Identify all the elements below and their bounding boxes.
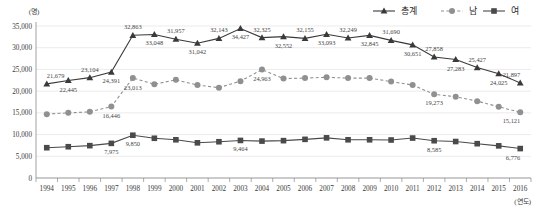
- marker-circle: [194, 82, 200, 88]
- y-axis-unit-label: (명): [29, 7, 40, 16]
- marker-circle: [345, 75, 351, 81]
- legend-label-여: 여: [511, 5, 519, 16]
- data-label: 23,013: [124, 84, 142, 91]
- marker-circle: [87, 109, 93, 115]
- marker-triangle: [431, 54, 438, 60]
- legend-label-남: 남: [469, 6, 477, 16]
- marker-triangle: [216, 35, 223, 41]
- marker-circle: [151, 81, 157, 87]
- chart-legend: 총계남여: [373, 5, 519, 16]
- marker-square: [109, 141, 115, 147]
- data-label: 23,104: [81, 66, 99, 73]
- data-label: 33,048: [146, 39, 164, 46]
- marker-square: [474, 141, 480, 147]
- data-label: 16,446: [103, 112, 121, 119]
- data-label: 30,651: [404, 50, 422, 57]
- marker-square: [130, 132, 136, 138]
- data-label: 27,858: [425, 45, 443, 52]
- marker-circle: [388, 79, 394, 85]
- data-label: 32,143: [210, 26, 228, 33]
- marker-circle: [130, 75, 136, 81]
- marker-circle: [44, 111, 50, 117]
- data-label: 19,273: [425, 99, 443, 106]
- marker-square: [517, 146, 523, 152]
- marker-square: [216, 139, 222, 145]
- x-axis-tick-label: 1996: [83, 185, 98, 193]
- x-axis-tick-label: 2015: [492, 185, 507, 193]
- y-axis-tick-label: 35,000: [12, 23, 32, 31]
- marker-circle: [517, 109, 523, 115]
- x-axis-tick-label: 2007: [319, 185, 334, 193]
- line-chart: 05,00010,00015,00020,00025,00030,00035,0…: [0, 0, 538, 213]
- x-axis-tick-label: 1999: [147, 185, 162, 193]
- marker-triangle: [366, 32, 373, 38]
- marker-square: [152, 135, 158, 141]
- x-axis-tick-label: 1998: [126, 185, 141, 193]
- data-label: 32,845: [361, 40, 379, 47]
- marker-square: [410, 135, 416, 141]
- data-label: 32,249: [339, 26, 357, 33]
- marker-circle: [302, 75, 308, 81]
- x-axis-tick-label: 2012: [427, 185, 442, 193]
- marker-triangle: [517, 80, 524, 86]
- x-axis-tick-label: 2003: [233, 185, 248, 193]
- data-label: 33,093: [318, 39, 336, 46]
- marker-circle: [216, 85, 222, 91]
- x-axis-tick-label: 1995: [61, 185, 76, 193]
- marker-square: [496, 143, 502, 149]
- marker-square: [281, 138, 287, 144]
- y-axis-tick-label: 10,000: [12, 131, 32, 139]
- marker-square: [388, 137, 394, 143]
- x-axis-tick-label: 2006: [298, 185, 313, 193]
- x-axis-tick-label: 2005: [276, 185, 291, 193]
- marker-circle: [65, 110, 71, 116]
- y-axis-tick-label: 0: [28, 175, 32, 183]
- data-label: 32,325: [253, 26, 271, 33]
- marker-circle: [474, 98, 480, 104]
- data-label: 31,690: [382, 28, 400, 35]
- x-axis-tick-label: 2010: [384, 185, 399, 193]
- marker-square: [238, 138, 244, 144]
- data-label: 27,283: [447, 65, 465, 72]
- marker-square: [431, 138, 437, 144]
- x-axis-tick-label: 1994: [40, 185, 55, 193]
- data-label: 24,025: [490, 79, 508, 86]
- y-axis-tick-label: 15,000: [12, 109, 32, 117]
- data-label: 6,776: [506, 154, 520, 161]
- marker-square: [345, 137, 351, 143]
- x-axis-unit-label: (연도): [514, 198, 531, 206]
- marker-square: [87, 143, 93, 149]
- marker-circle: [281, 76, 287, 82]
- y-axis-tick-label: 20,000: [12, 88, 32, 96]
- data-label: 21,679: [47, 72, 65, 79]
- series-남: [44, 67, 523, 118]
- marker-circle: [431, 91, 437, 97]
- y-axis-tick-label: 25,000: [12, 66, 32, 74]
- y-axis-tick-label: 5,000: [16, 153, 33, 161]
- x-axis-tick-label: 2009: [362, 185, 377, 193]
- marker-square: [65, 144, 71, 150]
- x-axis-tick-label: 2014: [470, 185, 485, 193]
- marker-circle: [324, 74, 330, 80]
- marker-square: [453, 139, 459, 145]
- marker-circle: [367, 75, 373, 81]
- x-axis-tick-label: 2000: [169, 185, 184, 193]
- data-label: 32,863: [124, 23, 142, 30]
- marker-square: [367, 137, 373, 143]
- marker-square: [302, 137, 308, 143]
- x-axis-tick-label: 2002: [212, 185, 227, 193]
- marker-circle: [496, 104, 502, 110]
- data-label: 32,552: [275, 42, 293, 49]
- data-label: 24,963: [253, 75, 271, 82]
- data-label: 9,464: [233, 145, 248, 152]
- marker-square: [195, 140, 201, 146]
- marker-circle: [237, 78, 243, 84]
- marker-circle: [453, 94, 459, 100]
- x-axis-tick-label: 2004: [255, 185, 270, 193]
- data-label: 25,427: [468, 56, 486, 63]
- data-label: 9,850: [126, 140, 140, 147]
- marker-circle: [410, 82, 416, 88]
- legend-label-총계: 총계: [401, 5, 417, 16]
- data-label: 34,427: [232, 33, 250, 40]
- marker-square: [324, 135, 330, 141]
